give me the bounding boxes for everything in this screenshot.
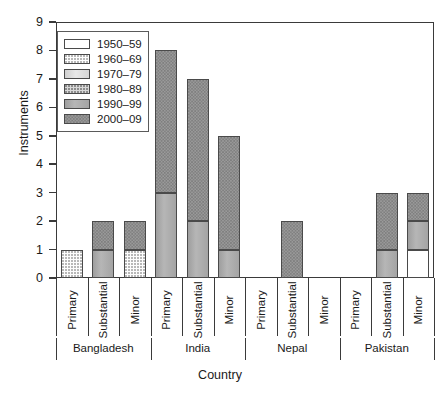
legend-label-1960: 1960–69 [97,53,142,65]
group-separator [340,338,341,360]
legend-item-1950[interactable]: 1950–59 [64,37,142,51]
x-category-label: Minor [223,271,235,349]
x-axis-title: Country [0,368,440,382]
y-axis-tick-label: 9 [36,13,43,31]
legend-swatch-1980 [64,84,90,94]
y-axis-tick-mark [49,192,56,194]
stacked-bar-chart: 0123456789 Instruments 1950–591960–69197… [0,0,440,397]
legend-swatch-1970 [64,69,90,79]
y-axis-tick-label: 3 [36,184,43,202]
x-category-separator [340,278,341,336]
x-category-label: Minor [318,271,330,349]
y-axis-tick-mark [49,163,56,165]
x-category-separator [119,278,120,336]
legend: 1950–591960–691970–791980–891990–992000–… [57,31,149,132]
y-axis-tick-label: 7 [36,70,43,88]
legend-item-1980[interactable]: 1980–89 [64,82,142,96]
legend-item-1970[interactable]: 1970–79 [64,67,142,81]
x-category-separator [56,278,57,336]
y-axis-tick-mark [49,135,56,137]
legend-label-2000: 2000–09 [97,113,142,125]
x-category-label: Primary [349,271,361,349]
legend-item-1990[interactable]: 1990–99 [64,97,142,111]
x-category-label: Substantial [381,271,393,349]
x-category-separator [182,278,183,336]
y-axis-tick-label: 6 [36,98,43,116]
x-category-label: Primary [255,271,267,349]
y-axis-tick-mark [49,277,56,279]
x-category-label: Minor [129,271,141,349]
group-separator [245,338,246,360]
group-separator [434,338,435,360]
legend-label-1990: 1990–99 [97,98,142,110]
x-category-separator [88,278,89,336]
y-axis-tick-label: 0 [36,269,43,287]
group-label-nepal: Nepal [245,342,340,354]
y-axis-tick-label: 4 [36,155,43,173]
y-axis-tick-label: 5 [36,127,43,145]
y-axis-tick-mark [49,50,56,52]
legend-label-1970: 1970–79 [97,68,142,80]
legend-item-2000[interactable]: 2000–09 [64,112,142,126]
x-category-separator [214,278,215,336]
x-category-label: Primary [160,271,172,349]
y-axis-tick-mark [49,220,56,222]
x-category-label: Substantial [97,271,109,349]
x-category-separator [308,278,309,336]
x-category-label: Substantial [192,271,204,349]
legend-item-1960[interactable]: 1960–69 [64,52,142,66]
y-axis-tick-mark [49,21,56,23]
x-category-separator [245,278,246,336]
y-axis-title: Instruments [17,63,31,183]
y-axis-tick-mark [49,78,56,80]
x-category-separator [371,278,372,336]
x-category-separator [434,278,435,336]
y-axis-tick-mark [49,249,56,251]
group-separator [56,338,57,360]
group-label-india: India [151,342,246,354]
group-separator [151,338,152,360]
x-category-separator [403,278,404,336]
x-category-label: Minor [412,271,424,349]
group-label-bangladesh: Bangladesh [56,342,151,354]
y-axis-tick-label: 2 [36,212,43,230]
x-category-label: Substantial [286,271,298,349]
x-axis-category-labels: PrimarySubstantialMinorPrimarySubstantia… [56,278,434,340]
y-axis-tick-label: 1 [36,241,43,259]
y-axis-tick-label: 8 [36,41,43,59]
x-axis-group-labels: BangladeshIndiaNepalPakistan [56,340,434,364]
legend-label-1980: 1980–89 [97,83,142,95]
x-category-separator [151,278,152,336]
legend-swatch-1960 [64,54,90,64]
x-category-label: Primary [66,271,78,349]
y-axis-tick-mark [49,107,56,109]
group-label-pakistan: Pakistan [340,342,435,354]
x-category-separator [277,278,278,336]
legend-swatch-1990 [64,99,90,109]
legend-label-1950: 1950–59 [97,38,142,50]
legend-swatch-1950 [64,39,90,49]
legend-swatch-2000 [64,114,90,124]
